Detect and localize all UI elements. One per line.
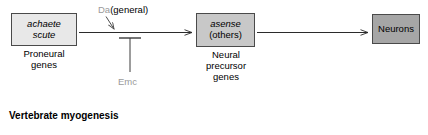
- regulator-qualifier-general: (general): [110, 4, 148, 15]
- pathway-diagram: achaete scute Proneural genes asense (ot…: [0, 0, 428, 135]
- gene-name-scute: scute: [33, 30, 56, 41]
- caption-neural-precursor-genes: Neural precursor genes: [188, 50, 264, 83]
- node-neurons: Neurons: [372, 14, 420, 44]
- regulator-name-da: Da: [98, 4, 110, 15]
- label-da-general: Da(general): [98, 4, 148, 15]
- caption-proneural-line2: genes: [6, 60, 82, 71]
- label-emc: Emc: [118, 76, 137, 87]
- node-neural-precursor-genes: asense (others): [196, 13, 255, 47]
- node-neurons-label: Neurons: [378, 24, 414, 35]
- node-proneural-genes: achaete scute: [11, 13, 77, 46]
- gene-name-achaete: achaete: [27, 19, 61, 30]
- figure-caption: Vertebrate myogenesis: [9, 110, 119, 121]
- caption-proneural-genes: Proneural genes: [6, 49, 82, 71]
- caption-precursor-line3: genes: [188, 72, 264, 83]
- arrow-da-activation: [106, 17, 114, 30]
- regulator-name-emc: Emc: [118, 76, 137, 87]
- gene-name-others: (others): [209, 30, 242, 41]
